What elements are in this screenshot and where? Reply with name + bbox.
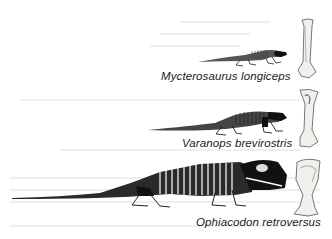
skeletal-comparison-figure: Mycterosaurus longiceps Varanops breviro… [0, 0, 332, 239]
humerus-ophiacodon [0, 0, 332, 239]
